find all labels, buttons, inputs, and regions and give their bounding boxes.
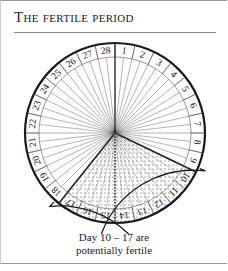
day-label: 23 [30, 99, 43, 112]
day-label: 7 [192, 121, 202, 127]
day-label: 2 [139, 49, 147, 60]
day-label: 27 [81, 48, 94, 61]
day-label: 5 [180, 84, 191, 94]
day-label: 22 [27, 118, 38, 129]
day-label: 21 [27, 137, 38, 148]
day-label: 14 [119, 210, 130, 221]
day-label: 9 [188, 157, 199, 165]
day-label: 28 [100, 45, 111, 56]
day-label: 8 [192, 139, 202, 145]
day-label: 1 [121, 45, 127, 55]
caption-line-2: potentially fertile [0, 244, 228, 257]
day-label: 4 [168, 69, 179, 80]
caption-line-1: Day 10 – 17 are [0, 231, 228, 244]
fertile-sector [59, 133, 196, 223]
day-label: 6 [188, 102, 199, 110]
day-label: 20 [30, 154, 43, 167]
day-label: 3 [154, 57, 164, 68]
